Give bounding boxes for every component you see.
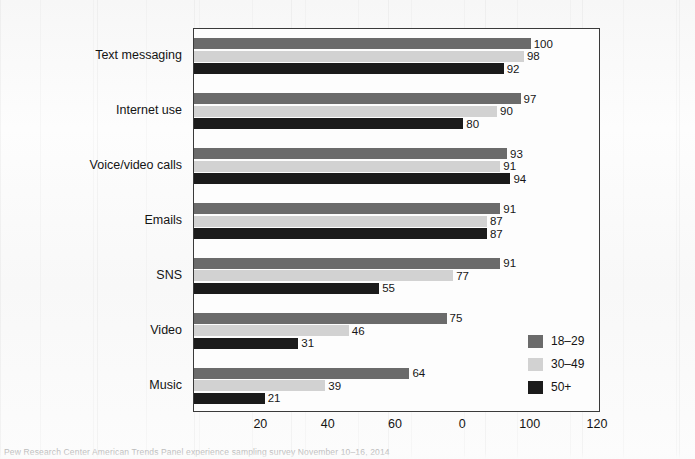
chart-legend: 18–2930–4950+ bbox=[528, 331, 590, 400]
category-label: SNS bbox=[156, 268, 182, 282]
x-axis: 2040600100120 bbox=[193, 412, 600, 438]
bar bbox=[194, 338, 298, 349]
bar-value-label: 94 bbox=[510, 173, 526, 185]
bar bbox=[194, 93, 521, 104]
bar-group: 917755 bbox=[194, 258, 599, 294]
bar-row: 87 bbox=[194, 216, 601, 227]
bar-value-label: 90 bbox=[497, 105, 513, 117]
bar-value-label: 80 bbox=[463, 118, 479, 130]
x-tick-label: 100 bbox=[519, 417, 540, 431]
bar-value-label: 75 bbox=[447, 312, 463, 324]
bar bbox=[194, 368, 409, 379]
bar-row: 91 bbox=[194, 161, 601, 172]
legend-swatch bbox=[528, 358, 543, 371]
bar bbox=[194, 203, 500, 214]
category-label: Text messaging bbox=[95, 48, 182, 62]
bar-row: 80 bbox=[194, 118, 601, 129]
bar-value-label: 97 bbox=[521, 93, 537, 105]
bar-value-label: 100 bbox=[531, 38, 553, 50]
bar-row: 93 bbox=[194, 148, 601, 159]
bar-row: 87 bbox=[194, 228, 601, 239]
bar bbox=[194, 393, 265, 404]
source-caption: Pew Research Center American Trends Pane… bbox=[4, 447, 390, 457]
bar bbox=[194, 313, 447, 324]
category-label: Video bbox=[150, 323, 182, 337]
bar bbox=[194, 63, 504, 74]
legend-entry: 50+ bbox=[528, 377, 590, 397]
legend-label: 30–49 bbox=[551, 357, 584, 371]
bar-value-label: 87 bbox=[487, 215, 503, 227]
bar-row: 77 bbox=[194, 270, 601, 281]
bar-row: 92 bbox=[194, 63, 601, 74]
bar-value-label: 21 bbox=[265, 392, 281, 404]
bar-group: 1009892 bbox=[194, 38, 599, 74]
legend-entry: 18–29 bbox=[528, 331, 590, 351]
bar bbox=[194, 148, 507, 159]
bar bbox=[194, 325, 349, 336]
bar bbox=[194, 380, 325, 391]
bar bbox=[194, 38, 531, 49]
bar bbox=[194, 161, 500, 172]
legend-swatch bbox=[528, 381, 543, 394]
category-label: Internet use bbox=[116, 103, 182, 117]
bar-group: 918787 bbox=[194, 203, 599, 239]
bar bbox=[194, 173, 510, 184]
bar-value-label: 87 bbox=[487, 228, 503, 240]
x-tick-label: 40 bbox=[321, 417, 335, 431]
legend-entry: 30–49 bbox=[528, 354, 590, 374]
bar-value-label: 91 bbox=[500, 203, 516, 215]
bar-value-label: 92 bbox=[504, 63, 520, 75]
bar-value-label: 46 bbox=[349, 325, 365, 337]
bar-row: 98 bbox=[194, 51, 601, 62]
bar-row: 55 bbox=[194, 283, 601, 294]
bar-value-label: 91 bbox=[500, 160, 516, 172]
bar-value-label: 64 bbox=[409, 367, 425, 379]
category-label: Music bbox=[149, 378, 182, 392]
x-tick-label: 0 bbox=[459, 417, 466, 431]
bar-row: 100 bbox=[194, 38, 601, 49]
bar-value-label: 39 bbox=[325, 380, 341, 392]
bar-value-label: 77 bbox=[453, 270, 469, 282]
x-tick-label: 120 bbox=[587, 417, 608, 431]
category-label: Voice/video calls bbox=[90, 158, 182, 172]
legend-label: 50+ bbox=[551, 380, 571, 394]
bar-row: 91 bbox=[194, 203, 601, 214]
bar-group: 939194 bbox=[194, 148, 599, 184]
bar-value-label: 91 bbox=[500, 257, 516, 269]
bar bbox=[194, 270, 453, 281]
bar-group: 979080 bbox=[194, 93, 599, 129]
bar-row: 91 bbox=[194, 258, 601, 269]
bar bbox=[194, 228, 487, 239]
legend-swatch bbox=[528, 335, 543, 348]
bar-row: 75 bbox=[194, 313, 601, 324]
y-axis-category-labels: Text messagingInternet useVoice/video ca… bbox=[0, 28, 188, 412]
bar bbox=[194, 106, 497, 117]
bar-row: 94 bbox=[194, 173, 601, 184]
chart-figure: Text messagingInternet useVoice/video ca… bbox=[0, 0, 695, 459]
bar bbox=[194, 258, 500, 269]
bar bbox=[194, 216, 487, 227]
legend-label: 18–29 bbox=[551, 334, 584, 348]
bar-value-label: 98 bbox=[524, 50, 540, 62]
bar-value-label: 31 bbox=[298, 337, 314, 349]
bar-value-label: 93 bbox=[507, 148, 523, 160]
bar bbox=[194, 118, 463, 129]
x-tick-label: 20 bbox=[253, 417, 267, 431]
bar-row: 90 bbox=[194, 106, 601, 117]
bar bbox=[194, 51, 524, 62]
x-tick-label: 60 bbox=[388, 417, 402, 431]
bar-value-label: 55 bbox=[379, 282, 395, 294]
bar-row: 97 bbox=[194, 93, 601, 104]
bar bbox=[194, 283, 379, 294]
category-label: Emails bbox=[144, 213, 182, 227]
